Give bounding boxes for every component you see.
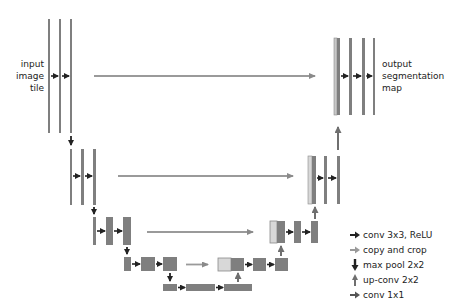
level4-decoder xyxy=(218,246,288,271)
output-label-line: segmentation xyxy=(382,70,444,82)
feature-map xyxy=(141,257,155,271)
legend-item-conv1x1: conv 1x1 xyxy=(349,287,432,302)
maxpool-arrow-icon xyxy=(349,259,361,271)
feature-map xyxy=(224,284,252,291)
feature-map xyxy=(93,149,96,205)
feature-map xyxy=(324,156,327,204)
input-label-line: image xyxy=(0,70,44,82)
level2-encoder xyxy=(70,149,96,214)
legend-item-maxpool: max pool 2x2 xyxy=(349,258,432,273)
output-label-line: output xyxy=(382,58,444,70)
feature-map xyxy=(253,258,266,271)
level1-encoder xyxy=(48,19,72,145)
feature-map xyxy=(275,258,288,271)
feature-map xyxy=(337,156,340,204)
bottleneck xyxy=(163,273,252,291)
upconv-arrow-icon xyxy=(349,274,361,286)
feature-map xyxy=(277,221,285,243)
legend-label: up-conv 2x2 xyxy=(363,275,419,285)
legend-label: conv 3x3, ReLU xyxy=(363,230,432,240)
feature-map xyxy=(59,19,61,133)
level3-decoder xyxy=(270,207,318,243)
input-label-line: tile xyxy=(0,82,44,94)
input-label: input image tile xyxy=(0,58,44,94)
feature-map xyxy=(124,257,131,271)
output-label: output segmentation map xyxy=(382,58,444,94)
conv-arrow-icon xyxy=(349,229,361,241)
feature-map xyxy=(70,149,72,205)
feature-map xyxy=(294,221,301,243)
feature-map-cropped xyxy=(270,221,277,243)
feature-map xyxy=(163,257,177,271)
legend: conv 3x3, ReLU copy and crop max pool 2x… xyxy=(349,228,432,302)
input-label-line: input xyxy=(0,58,44,70)
level3-encoder xyxy=(93,217,131,254)
feature-map xyxy=(362,38,365,115)
feature-map-cropped xyxy=(334,38,337,115)
feature-map-cropped xyxy=(218,258,231,271)
feature-map xyxy=(231,258,244,271)
feature-map-cropped xyxy=(308,156,312,204)
feature-map xyxy=(106,217,113,245)
legend-item-upconv: up-conv 2x2 xyxy=(349,272,432,287)
copy-arrow-icon xyxy=(349,244,361,256)
feature-map xyxy=(312,156,316,204)
feature-map xyxy=(186,284,215,291)
level4-encoder xyxy=(124,257,177,281)
level1-decoder xyxy=(334,38,375,115)
level2-decoder xyxy=(308,127,340,204)
feature-map xyxy=(337,38,340,115)
feature-map xyxy=(70,19,72,133)
feature-map xyxy=(93,217,96,245)
feature-map xyxy=(81,149,84,205)
feature-map xyxy=(311,221,318,243)
legend-label: conv 1x1 xyxy=(363,290,404,300)
legend-item-copy: copy and crop xyxy=(349,243,432,258)
feature-map xyxy=(349,38,352,115)
feature-map xyxy=(123,217,131,245)
legend-label: copy and crop xyxy=(363,245,427,255)
feature-map xyxy=(48,19,50,133)
feature-map xyxy=(163,284,177,291)
conv1x1-arrow-icon xyxy=(349,289,361,301)
output-map xyxy=(373,38,375,115)
output-label-line: map xyxy=(382,82,444,94)
legend-label: max pool 2x2 xyxy=(363,260,424,270)
legend-item-conv: conv 3x3, ReLU xyxy=(349,228,432,243)
